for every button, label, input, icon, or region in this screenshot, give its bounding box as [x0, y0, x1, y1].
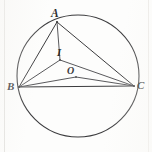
point-label-B: B	[7, 81, 14, 92]
point-label-O: O	[67, 66, 74, 76]
point-A-marker	[56, 21, 58, 23]
point-label-C: C	[137, 80, 144, 91]
point-B-marker	[18, 86, 20, 88]
point-label-A: A	[51, 8, 59, 20]
segment-AB	[19, 22, 57, 87]
point-O-marker	[75, 76, 77, 78]
geometry-canvas	[0, 0, 152, 152]
point-label-I: I	[57, 48, 61, 59]
page-edge-right	[148, 0, 149, 152]
segment-AC	[57, 22, 134, 86]
segment-BC	[19, 86, 134, 87]
point-I-marker	[59, 59, 61, 61]
page-edge-left	[4, 0, 5, 152]
segment-BO	[19, 77, 76, 87]
geometry-figure: A B C I O	[0, 0, 152, 152]
point-C-marker	[133, 85, 135, 87]
